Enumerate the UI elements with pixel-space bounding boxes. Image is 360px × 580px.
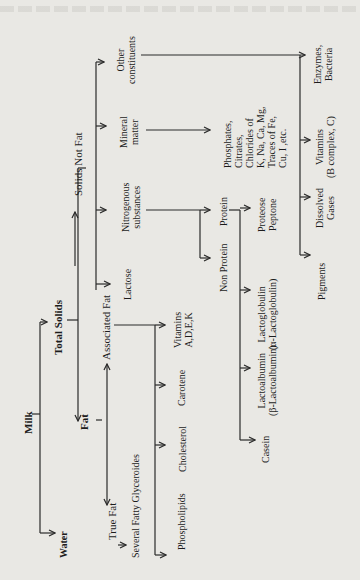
node-proteose-peptone: Proteose Peptone [256, 198, 278, 232]
node-lactoglobulin: Lactoglobulin (α-Lactoglobulin) [256, 279, 278, 350]
mineral-line2: matter [129, 116, 140, 148]
proteose-line2: Peptone [267, 198, 278, 232]
node-true-fat: True Fat [106, 503, 118, 540]
nitrogenous-line2: substances [131, 183, 142, 232]
minerals-line6: Cu, I ,etc. [277, 107, 288, 168]
node-lactoalbumin: Lactoalbumin (β-Lactoalbumin) [256, 345, 278, 416]
node-other-constituents: Other constituents [115, 36, 137, 84]
node-pigments: Pigments [316, 263, 327, 300]
other-line1: Other [115, 36, 126, 84]
node-phospholipids: Phospholipids [176, 493, 187, 550]
node-water: Water [58, 531, 69, 558]
proteose-line1: Proteose [256, 198, 267, 232]
minerals-line4: K, Na, Ca, Mg, [255, 107, 266, 168]
node-cholesterol: Cholesterol [177, 426, 188, 472]
minerals-line3: Chlorides of [244, 107, 255, 168]
mineral-line1: Mineral [118, 116, 129, 148]
node-non-protein: Non Protein [218, 243, 229, 292]
vitamins-bc-line1: Vitamins [314, 116, 325, 178]
vitamins-bc-line2: (B complex, C) [325, 116, 336, 178]
node-total-solids: Total Solids [52, 300, 64, 355]
minerals-line2: Citrates, [233, 107, 244, 168]
lactoalbumin-line1: Lactoalbumin [256, 345, 267, 416]
vitamins-adek-line2: A,D,E,K [183, 312, 194, 348]
dissolved-line1: Dissolved [314, 188, 325, 228]
node-nitrogenous-substances: Nitrogenous substances [120, 183, 142, 232]
node-lactose: Lactose [122, 269, 133, 300]
node-mineral-matter: Mineral matter [118, 116, 140, 148]
node-casein: Casein [260, 436, 271, 463]
node-fat: Fat [78, 414, 90, 430]
node-solids-not-fat: Solids Not Fat [72, 132, 84, 196]
node-milk: Milk [22, 411, 34, 434]
enzymes-line2: Bacteria [323, 45, 334, 84]
minerals-line1: Phosphates, [222, 107, 233, 168]
minerals-line5: Traces of Fe, [266, 107, 277, 168]
lactoglobulin-line1: Lactoglobulin [256, 279, 267, 350]
node-several-fatty-glyceroides: Several Fatty Glyceroides [130, 454, 141, 558]
node-carotene: Carotene [176, 370, 187, 406]
vitamins-adek-line1: Vitamins [172, 312, 183, 348]
node-minerals-list: Phosphates, Citrates, Chlorides of K, Na… [222, 107, 288, 168]
node-associated-fat: Associated Fat [100, 295, 112, 360]
lactoalbumin-line2: (β-Lactoalbumin) [267, 345, 278, 416]
enzymes-line1: Enzymes, [312, 45, 323, 84]
node-vitamins-adek: Vitamins A,D,E,K [172, 312, 194, 348]
other-line2: constituents [126, 36, 137, 84]
lactoglobulin-line2: (α-Lactoglobulin) [267, 279, 278, 350]
node-protein: Protein [218, 197, 229, 226]
node-vitamins-bc: Vitamins (B complex, C) [314, 116, 336, 178]
node-enzymes-bacteria: Enzymes, Bacteria [312, 45, 334, 84]
dissolved-line2: Gases [325, 188, 336, 228]
nitrogenous-line1: Nitrogenous [120, 183, 131, 232]
node-dissolved-gases: Dissolved Gases [314, 188, 336, 228]
